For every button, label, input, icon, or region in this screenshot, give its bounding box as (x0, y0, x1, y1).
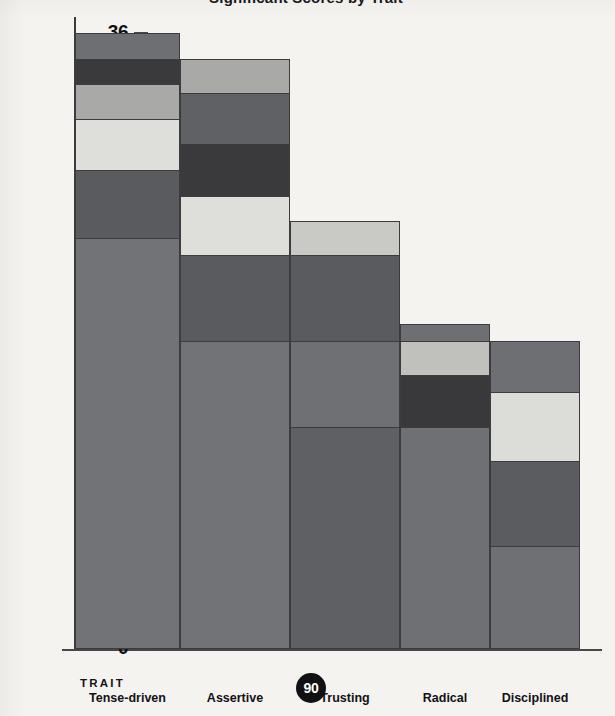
bar-segment[interactable] (400, 324, 490, 341)
bar-segment[interactable] (75, 170, 180, 238)
bar-segment[interactable] (75, 84, 180, 118)
bar-segment[interactable] (75, 119, 180, 170)
bar-segment[interactable] (290, 341, 400, 427)
bar-segment[interactable] (75, 33, 180, 59)
x-tick-label: Radical (423, 691, 467, 705)
bar-segment[interactable] (75, 59, 180, 85)
bar-segment[interactable] (180, 144, 290, 195)
bar-segment[interactable] (290, 427, 400, 649)
bar-segment[interactable] (290, 255, 400, 341)
bar-segment[interactable] (290, 221, 400, 255)
bar-radical[interactable] (400, 324, 490, 649)
bar-trusting[interactable] (290, 221, 400, 649)
chart-page: Significant Scores by Trait Number of pe… (0, 0, 615, 716)
bar-segment[interactable] (490, 461, 580, 547)
chart-title: Significant Scores by Trait (96, 0, 516, 6)
bar-tense-driven[interactable] (75, 33, 180, 649)
bar-segment[interactable] (400, 427, 490, 649)
x-tick-label: Tense-driven (89, 691, 166, 705)
bar-segment[interactable] (490, 341, 580, 392)
bar-segment[interactable] (490, 546, 580, 649)
x-tick-label: Disciplined (502, 691, 569, 705)
bar-segment[interactable] (180, 196, 290, 256)
bar-segment[interactable] (75, 238, 180, 649)
bar-segment[interactable] (400, 375, 490, 426)
bar-segment[interactable] (400, 341, 490, 375)
bar-assertive[interactable] (180, 59, 290, 649)
bar-segment[interactable] (180, 59, 290, 93)
x-tick-label: Trusting (320, 691, 369, 705)
x-axis-label: TRAIT (80, 677, 125, 689)
x-tick-label: Assertive (207, 691, 263, 705)
page-number-badge: 90 (296, 673, 326, 703)
bar-segment[interactable] (490, 392, 580, 460)
bar-segment[interactable] (180, 255, 290, 341)
bar-segment[interactable] (180, 93, 290, 144)
plot-area: Number of people with Significant Scores… (75, 33, 580, 649)
bar-segment[interactable] (180, 341, 290, 649)
bar-disciplined[interactable] (490, 341, 580, 649)
